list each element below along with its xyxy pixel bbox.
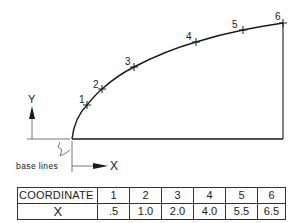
table-cell: 2.0 xyxy=(162,204,194,220)
table-cell: .5 xyxy=(98,204,130,220)
table-header-row: COORDINATE 1 2 3 4 5 6 xyxy=(18,188,286,204)
table-cell: 4.0 xyxy=(194,204,226,220)
point-label-4: 4 xyxy=(186,31,192,42)
point-marker-4 xyxy=(192,38,200,46)
table-cell: X xyxy=(18,204,98,220)
base-lines-annotation: base lines xyxy=(16,161,58,171)
point-label-1: 1 xyxy=(79,94,85,105)
table-header-cell: COORDINATE xyxy=(18,188,98,204)
table-row: X .5 1.0 2.0 4.0 5.5 6.5 xyxy=(18,204,286,220)
table-header-cell: 1 xyxy=(98,188,130,204)
point-markers xyxy=(83,19,287,109)
table-header-cell: 6 xyxy=(258,188,286,204)
table-header-cell: 5 xyxy=(226,188,258,204)
table-cell: 6.5 xyxy=(258,204,286,220)
y-arrowhead-icon xyxy=(29,106,35,119)
point-label-2: 2 xyxy=(93,79,99,90)
point-marker-5 xyxy=(239,26,247,34)
point-marker-3 xyxy=(130,63,138,71)
x-arrowhead-icon xyxy=(93,163,108,169)
y-axis-label: Y xyxy=(28,93,36,105)
table-cell: 1.0 xyxy=(130,204,162,220)
point-label-6: 6 xyxy=(275,11,281,22)
point-label-5: 5 xyxy=(232,19,238,30)
x-axis-label: X xyxy=(110,159,118,173)
point-label-3: 3 xyxy=(125,56,131,67)
profile-curve xyxy=(72,23,283,139)
table-cell: 5.5 xyxy=(226,204,258,220)
table-header-cell: 4 xyxy=(194,188,226,204)
table-header-cell: 3 xyxy=(162,188,194,204)
annotation-leader xyxy=(58,142,70,156)
table-header-cell: 2 xyxy=(130,188,162,204)
coordinate-table: COORDINATE 1 2 3 4 5 6 X .5 1.0 2.0 4.0 … xyxy=(17,187,286,220)
